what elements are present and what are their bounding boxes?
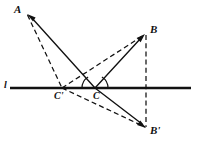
point-label-C: C (93, 91, 100, 101)
ray-C-to-B-prime (95, 88, 142, 124)
dashed-segment-A-to-C-prime (28, 15, 63, 88)
ray-C-to-A (31, 17, 95, 88)
point-label-B: B (150, 24, 157, 35)
ray-C-to-B (95, 38, 141, 88)
geometry-diagram: A B B' C C' l (0, 0, 197, 150)
line-label-l: l (4, 80, 7, 90)
point-label-B-prime: B' (150, 125, 160, 136)
point-label-A: A (14, 4, 21, 15)
point-label-C-prime: C' (54, 91, 63, 101)
diagram-canvas (0, 0, 197, 150)
